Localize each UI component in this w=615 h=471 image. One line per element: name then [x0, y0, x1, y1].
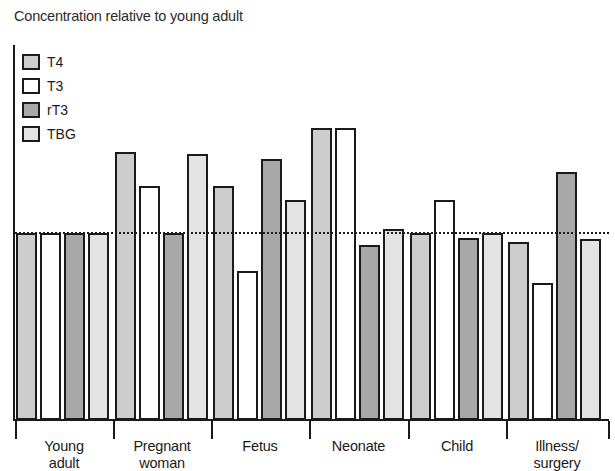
bar-t3-group-0	[40, 233, 61, 420]
bar-rt3-group-2	[261, 159, 282, 420]
bar-tbg-group-5	[580, 239, 601, 420]
bar-rt3-group-5	[556, 172, 577, 420]
reference-baseline	[15, 232, 609, 234]
bar-rt3-group-1	[163, 233, 184, 420]
group-label-line2: surgery	[506, 455, 608, 471]
bar-rt3-group-0	[64, 233, 85, 420]
group-separator-tick-6	[608, 421, 610, 439]
group-label-2: Fetus	[211, 438, 309, 455]
group-label-line1: Young	[15, 438, 113, 455]
group-label-3: Neonate	[309, 438, 408, 455]
group-label-line1: Fetus	[211, 438, 309, 455]
group-label-line1: Illness/	[506, 438, 608, 455]
bar-t4-group-2	[213, 186, 234, 420]
group-label-line1: Child	[408, 438, 506, 455]
group-label-4: Child	[408, 438, 506, 455]
group-label-line2: woman	[113, 455, 211, 471]
bar-t4-group-0	[16, 233, 37, 420]
group-separator-tick-3	[309, 421, 311, 439]
group-separator-tick-1	[113, 421, 115, 439]
group-label-0: Youngadult	[15, 438, 113, 471]
bar-t4-group-3	[311, 128, 332, 420]
group-separator-tick-4	[408, 421, 410, 439]
bar-t4-group-1	[115, 152, 136, 420]
group-separator-tick-5	[506, 421, 508, 439]
bar-t3-group-2	[237, 271, 258, 420]
group-label-line2: adult	[15, 455, 113, 471]
thyroid-hormone-bar-chart: Concentration relative to young adult T4…	[0, 0, 615, 471]
group-separator-tick-0	[15, 421, 17, 439]
bar-tbg-group-1	[187, 154, 208, 420]
bar-t3-group-5	[532, 283, 553, 420]
bar-tbg-group-3	[383, 229, 404, 420]
bar-t4-group-4	[410, 233, 431, 420]
bar-rt3-group-4	[458, 238, 479, 420]
bar-t3-group-3	[335, 128, 356, 420]
bar-t3-group-1	[139, 186, 160, 420]
group-label-1: Pregnantwoman	[113, 438, 211, 471]
group-label-band: YoungadultPregnantwomanFetusNeonateChild…	[0, 421, 615, 471]
group-label-line1: Neonate	[309, 438, 408, 455]
bar-tbg-group-4	[482, 233, 503, 420]
group-separator-tick-2	[211, 421, 213, 439]
plot-area	[0, 0, 615, 421]
bar-t4-group-5	[508, 242, 529, 420]
group-label-5: Illness/surgery	[506, 438, 608, 471]
bar-tbg-group-0	[88, 233, 109, 420]
group-label-line1: Pregnant	[113, 438, 211, 455]
bar-rt3-group-3	[359, 245, 380, 420]
